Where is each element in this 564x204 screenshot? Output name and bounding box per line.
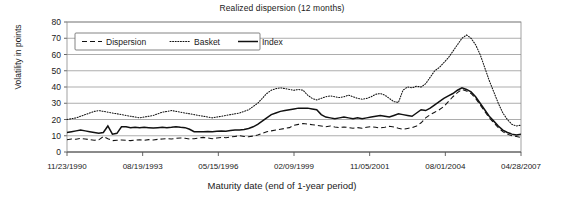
y-tick-label: 70	[52, 33, 62, 43]
x-tick-label: 04/28/2007	[501, 162, 542, 171]
y-tick-label: 10	[52, 131, 62, 141]
y-tick-label: 60	[52, 50, 62, 60]
series-line-dispersion	[67, 89, 521, 140]
chart-figure: Realized dispersion (12 months) Volatili…	[0, 0, 564, 204]
x-tick-label: 02/09/1999	[274, 162, 315, 171]
x-tick-label: 05/15/1996	[198, 162, 239, 171]
x-tick-label: 11/23/1990	[47, 162, 87, 171]
legend-label-basket: Basket	[194, 37, 221, 47]
y-tick-label: 30	[52, 98, 62, 108]
chart-plot-area: 0102030405060708011/23/199008/19/199305/…	[0, 0, 564, 204]
y-tick-label: 0	[56, 147, 61, 157]
x-tick-label: 08/01/2004	[425, 162, 466, 171]
legend-label-dispersion: Dispersion	[106, 37, 146, 47]
series-line-index	[67, 88, 521, 135]
x-tick-label: 08/19/1993	[123, 162, 164, 171]
chart-legend	[75, 33, 260, 50]
y-tick-label: 80	[52, 17, 62, 27]
y-tick-label: 20	[52, 115, 62, 125]
y-tick-label: 40	[52, 82, 62, 92]
y-tick-label: 50	[52, 66, 62, 76]
x-tick-label: 11/05/2001	[350, 162, 390, 171]
legend-label-index: Index	[262, 37, 284, 47]
